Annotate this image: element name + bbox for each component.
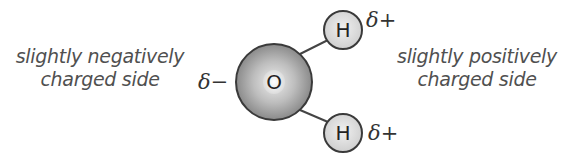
bond-bottom xyxy=(300,110,328,122)
hydrogen-symbol-bottom: H xyxy=(335,121,350,145)
hydrogen-atom-bottom: H xyxy=(324,114,362,152)
hydrogen-top-charge-label: δ+ xyxy=(366,8,396,32)
water-molecule: O H H δ− δ+ δ+ xyxy=(0,0,569,161)
hydrogen-symbol-top: H xyxy=(335,18,350,42)
hydrogen-bottom-charge-label: δ+ xyxy=(368,121,398,145)
oxygen-charge-label: δ− xyxy=(198,70,228,94)
oxygen-atom: O xyxy=(236,44,312,120)
bond-top xyxy=(300,40,328,54)
oxygen-symbol: O xyxy=(266,70,282,94)
hydrogen-atom-top: H xyxy=(324,11,362,49)
